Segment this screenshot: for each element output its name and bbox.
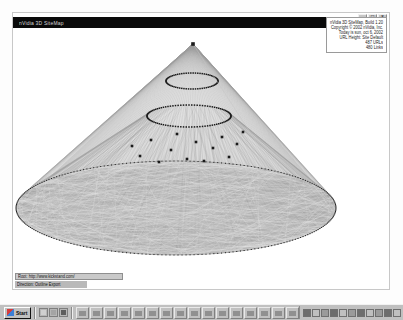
windows-taskbar: Start 10:23: [0, 304, 403, 320]
taskbar-window-button[interactable]: [202, 307, 215, 319]
taskbar-window-button[interactable]: [146, 307, 159, 319]
quick-launch-icon[interactable]: [49, 308, 58, 317]
taskbar-window-button[interactable]: [216, 307, 229, 319]
quick-launch-bar: [39, 308, 68, 317]
windows-logo-icon: [7, 309, 14, 316]
taskbar-window-button[interactable]: [160, 307, 173, 319]
taskbar-window-button[interactable]: [258, 307, 271, 319]
tray-icon-list: [303, 309, 401, 317]
tray-icon[interactable]: [393, 309, 401, 317]
taskbar-separator-2: [71, 307, 73, 319]
tray-icon[interactable]: [303, 309, 311, 317]
tray-icon[interactable]: [366, 309, 374, 317]
status-root-url-text: Root: http://www.kickstand.com/: [16, 274, 75, 280]
taskbar-window-button[interactable]: [188, 307, 201, 319]
quick-launch-icon[interactable]: [59, 308, 68, 317]
tray-icon[interactable]: [348, 309, 356, 317]
window-title: nVidia 3D SiteMap: [13, 19, 64, 26]
taskbar-separator-1: [34, 307, 36, 319]
status-direction: Direction: Outline Export: [15, 281, 87, 288]
tray-icon[interactable]: [339, 309, 347, 317]
taskbar-window-button[interactable]: [132, 307, 145, 319]
sitemap-3d-viewport[interactable]: [13, 28, 389, 274]
taskbar-window-button[interactable]: [76, 307, 89, 319]
taskbar-window-button[interactable]: [230, 307, 243, 319]
window-title-bar[interactable]: nVidia 3D SiteMap: [13, 17, 365, 28]
system-tray: 10:23: [299, 306, 403, 319]
quick-launch-icon[interactable]: [39, 308, 48, 317]
tray-icon[interactable]: [321, 309, 329, 317]
tray-icon[interactable]: [312, 309, 320, 317]
taskbar-window-button[interactable]: [272, 307, 285, 319]
app-window-3d-sitemap: nVidia 3D SiteMap _ □ ×: [12, 12, 390, 290]
taskbar-window-button[interactable]: [104, 307, 117, 319]
status-bar: Root: http://www.kickstand.com/ Directio…: [13, 273, 389, 289]
status-direction-text: Direction: Outline Export: [15, 282, 60, 288]
task-button-list: [76, 307, 299, 319]
tray-icon[interactable]: [375, 309, 383, 317]
sitemap-cone-graph: [13, 28, 389, 274]
desktop-screen: nVidia 3D SiteMap _ □ ×: [0, 0, 403, 320]
tray-icon[interactable]: [357, 309, 365, 317]
start-button[interactable]: Start: [4, 307, 31, 319]
info-line-link-count: 480 Links: [330, 45, 383, 51]
taskbar-window-button[interactable]: [244, 307, 257, 319]
taskbar-window-button[interactable]: [174, 307, 187, 319]
tray-icon[interactable]: [384, 309, 392, 317]
taskbar-window-button[interactable]: [286, 307, 299, 319]
status-root-url: Root: http://www.kickstand.com/: [15, 273, 123, 280]
start-button-label: Start: [16, 310, 27, 316]
tray-icon[interactable]: [330, 309, 338, 317]
taskbar-window-button[interactable]: [90, 307, 103, 319]
sitemap-info-panel: nVidia 3D SiteMap, Build 1.20 Copyright …: [326, 17, 387, 53]
taskbar-window-button[interactable]: [118, 307, 131, 319]
